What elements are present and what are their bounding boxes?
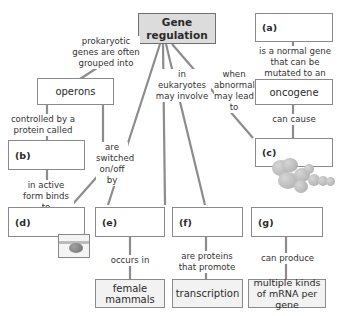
node-d: (d) bbox=[8, 207, 85, 237]
link-proteins-promote-text: are proteins that promote bbox=[179, 251, 236, 272]
root-line-1: Gene bbox=[162, 16, 192, 29]
link-can-produce: can produce bbox=[261, 253, 313, 264]
link-normal-gene-text: is a normal gene that can be mutated to … bbox=[259, 46, 331, 78]
link-switched: are switched on/off by bbox=[96, 142, 128, 186]
link-controlled-by: controlled by a protein called bbox=[10, 114, 76, 136]
node-f: (f) bbox=[172, 207, 243, 237]
repressor-binding-image bbox=[58, 234, 90, 258]
link-controlled-by-text: controlled by a protein called bbox=[11, 114, 75, 135]
link-can-cause-text: can cause bbox=[272, 114, 315, 124]
node-operons: operons bbox=[37, 78, 114, 105]
tumor-cells-image bbox=[270, 158, 340, 198]
node-transcription: transcription bbox=[172, 279, 243, 308]
link-normal-gene: is a normal gene that can be mutated to … bbox=[252, 46, 338, 79]
node-mrna-label: multiple kinds of mRNA per gene bbox=[250, 277, 324, 310]
node-female-mammals-label: female mammals bbox=[105, 283, 155, 305]
node-g-label: (g) bbox=[258, 217, 273, 228]
node-d-label: (d) bbox=[15, 217, 30, 228]
node-oncogene-label: oncogene bbox=[269, 87, 318, 98]
node-female-mammals: female mammals bbox=[95, 279, 165, 308]
node-b-label: (b) bbox=[15, 150, 30, 161]
node-operons-label: operons bbox=[55, 86, 95, 97]
root-node-gene-regulation: Gene regulation bbox=[138, 13, 216, 44]
link-occurs-in-text: occurs in bbox=[111, 255, 150, 265]
node-oncogene: oncogene bbox=[255, 79, 333, 105]
node-c-label: (c) bbox=[262, 147, 276, 158]
link-can-cause: can cause bbox=[270, 114, 318, 125]
root-line-2: regulation bbox=[146, 29, 207, 42]
link-abnormal: when abnormal may lead to bbox=[214, 69, 254, 113]
link-abnormal-text: when abnormal may lead to bbox=[214, 69, 255, 112]
cropped-caption bbox=[20, 0, 24, 6]
link-eukaryotes: in eukaryotes may involve bbox=[153, 69, 211, 102]
link-prokaryotic-text: prokaryotic genes are often grouped into bbox=[72, 36, 140, 68]
link-occurs-in: occurs in bbox=[110, 255, 150, 266]
node-g: (g) bbox=[251, 207, 323, 237]
link-proteins-promote: are proteins that promote bbox=[176, 251, 238, 273]
node-a: (a) bbox=[255, 13, 333, 42]
node-e: (e) bbox=[95, 207, 165, 237]
link-can-produce-text: can produce bbox=[261, 253, 314, 263]
node-b: (b) bbox=[8, 140, 85, 170]
node-e-label: (e) bbox=[102, 217, 117, 228]
link-eukaryotes-text: in eukaryotes may involve bbox=[156, 69, 208, 101]
link-prokaryotic: prokaryotic genes are often grouped into bbox=[72, 36, 140, 69]
node-transcription-label: transcription bbox=[176, 288, 240, 299]
node-f-label: (f) bbox=[179, 217, 192, 228]
node-mrna: multiple kinds of mRNA per gene bbox=[248, 279, 326, 308]
node-a-label: (a) bbox=[262, 22, 277, 33]
